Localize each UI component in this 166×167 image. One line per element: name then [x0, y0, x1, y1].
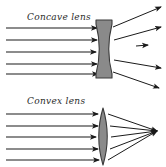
concave-incident-rays	[6, 28, 98, 74]
convex-incident-rays	[6, 114, 99, 160]
concave-label: Concave lens	[27, 12, 91, 22]
panel-convex: Convex lens	[6, 96, 157, 165]
concave-lens-shape	[96, 20, 112, 78]
ray-emergent	[114, 27, 161, 40]
panel-concave: Concave lens	[6, 7, 161, 88]
diagram-canvas: Concave lens Convex lens	[0, 0, 166, 167]
ray-emergent	[113, 7, 161, 27]
ray-emergent	[108, 131, 157, 160]
convex-lens-shape	[99, 108, 108, 165]
convex-label: Convex lens	[27, 96, 85, 106]
convex-emergent-rays	[108, 114, 157, 160]
ray-emergent	[136, 45, 148, 46]
optics-diagram: Concave lens Convex lens	[0, 0, 166, 167]
ray-emergent	[114, 60, 161, 68]
concave-emergent-rays	[113, 7, 161, 88]
ray-emergent	[113, 72, 159, 88]
